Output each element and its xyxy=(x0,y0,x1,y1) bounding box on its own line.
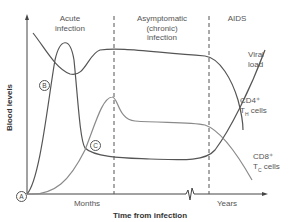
label-viral-load: Viralload xyxy=(248,50,264,69)
cd4-curve xyxy=(33,33,243,130)
x-axis-label: Time from infection xyxy=(100,211,200,221)
phase-label-chronic: Asymptomatic(chronic)infection xyxy=(124,14,200,43)
marker-a: A xyxy=(16,191,27,202)
viral-load-curve xyxy=(27,43,265,194)
label-cd4: CD4⁺TH cells xyxy=(240,96,267,119)
phase-label-aids: AIDS xyxy=(222,14,252,24)
x-axis-arrow-icon xyxy=(262,192,268,196)
y-axis-label: Blood levels xyxy=(5,84,14,131)
phase-label-acute: Acuteinfection xyxy=(45,14,95,33)
y-axis-arrow-icon xyxy=(25,14,29,20)
marker-b: B xyxy=(39,80,50,91)
x-tick-months: Months xyxy=(70,199,104,209)
label-cd8: CD8⁺TC cells xyxy=(253,152,280,175)
x-tick-years: Years xyxy=(212,199,242,209)
marker-c: C xyxy=(90,140,101,151)
